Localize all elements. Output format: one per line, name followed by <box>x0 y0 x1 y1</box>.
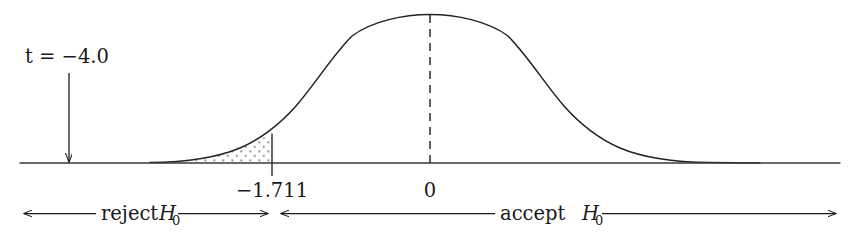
reject-region-label: reject H 0 <box>101 202 180 228</box>
reject-region-label-subscript: 0 <box>172 213 180 228</box>
rejection-region-shading <box>130 125 280 167</box>
reject-region-label-text: reject <box>101 202 158 225</box>
accept-region-label-subscript: 0 <box>595 213 603 228</box>
t-distribution-figure: t = −4.0 −1.711 0 reject H 0 accept H 0 <box>0 0 858 239</box>
test-statistic-label: t = −4.0 <box>25 45 109 68</box>
critical-value-label: −1.711 <box>236 179 308 202</box>
figure-canvas: t = −4.0 −1.711 0 reject H 0 accept H 0 <box>0 0 858 239</box>
t-distribution-curve <box>150 15 760 163</box>
center-label: 0 <box>424 179 436 202</box>
accept-region-label-text: accept <box>500 202 565 225</box>
accept-region-label: accept H 0 <box>500 202 603 228</box>
